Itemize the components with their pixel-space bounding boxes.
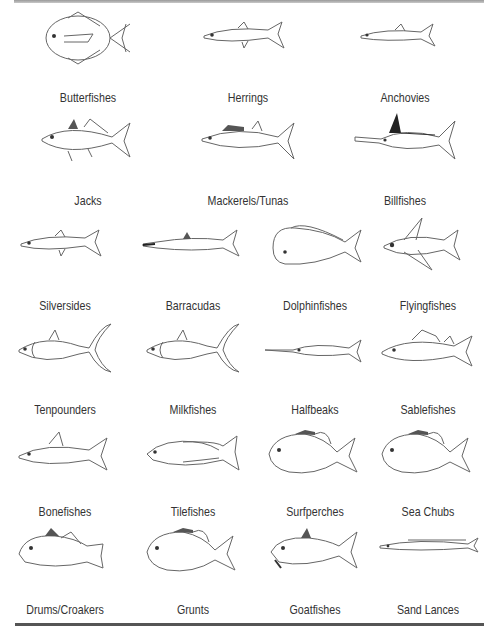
top-rule (14, 0, 484, 3)
fish-item: Silversides (0, 218, 130, 318)
sea-chub-icon (378, 424, 478, 480)
fish-item: Milkfishes (128, 322, 258, 422)
fish-label: Herrings (195, 90, 302, 105)
fish-label: Barracudas (140, 298, 247, 313)
silverside-icon (15, 218, 115, 274)
fish-label: Anchovies (352, 90, 459, 105)
fish-label: Mackerels/Tunas (195, 193, 302, 208)
fish-item: Sablefishes (363, 322, 493, 422)
fish-item: Sand Lances (363, 522, 493, 622)
bottom-rule (15, 623, 484, 626)
fish-label: Grunts (140, 602, 247, 617)
fish-label: Tilefishes (140, 504, 247, 519)
fish-label: Drums/Croakers (12, 602, 119, 617)
fish-label: Tenpounders (12, 402, 119, 417)
tilefish-icon (143, 424, 243, 480)
fish-label: Milkfishes (140, 402, 247, 417)
fish-item: Anchovies (340, 10, 470, 110)
fish-label: Butterfishes (35, 90, 142, 105)
jack-icon (38, 113, 138, 169)
fish-label: Silversides (12, 298, 119, 313)
fish-label: Flyingfishes (375, 298, 482, 313)
fish-item: Tilefishes (128, 424, 258, 524)
fish-label: Goatfishes (262, 602, 369, 617)
bonefish-icon (15, 424, 115, 480)
fish-label: Billfishes (352, 193, 459, 208)
dolphinfish-icon (265, 218, 365, 274)
tenpounder-icon (15, 322, 115, 378)
fish-label: Sablefishes (375, 402, 482, 417)
fish-item: Sea Chubs (363, 424, 493, 524)
halfbeak-icon (265, 322, 365, 378)
fish-item: Butterfishes (23, 10, 153, 110)
fish-item: Billfishes (340, 113, 470, 213)
fish-item: Bonefishes (0, 424, 130, 524)
fish-label: Halfbeaks (262, 402, 369, 417)
billfish-icon (355, 113, 455, 169)
fish-item: Flyingfishes (363, 218, 493, 318)
fish-item: Halfbeaks (250, 322, 380, 422)
fish-item: Dolphinfishes (250, 218, 380, 318)
anchovy-icon (355, 10, 455, 66)
fish-label: Sand Lances (375, 602, 482, 617)
fish-item: Mackerels/Tunas (183, 113, 313, 213)
barracuda-icon (143, 218, 243, 274)
goatfish-icon (265, 522, 365, 578)
fish-label: Bonefishes (12, 504, 119, 519)
surfperch-icon (265, 424, 365, 480)
fish-item: Barracudas (128, 218, 258, 318)
fish-label: Jacks (35, 193, 142, 208)
flyingfish-icon (378, 218, 478, 274)
fish-label: Surfperches (262, 504, 369, 519)
fish-item: Surfperches (250, 424, 380, 524)
butterfish-icon (38, 10, 138, 66)
herring-icon (198, 10, 298, 66)
fish-item: Herrings (183, 10, 313, 110)
fish-item: Goatfishes (250, 522, 380, 622)
fish-item: Drums/Croakers (0, 522, 130, 622)
mackerel-icon (198, 113, 298, 169)
sand-lance-icon (378, 522, 478, 578)
milkfish-icon (143, 322, 243, 378)
drum-icon (15, 522, 115, 578)
fish-item: Tenpounders (0, 322, 130, 422)
fish-item: Grunts (128, 522, 258, 622)
sablefish-icon (378, 322, 478, 378)
fish-label: Dolphinfishes (262, 298, 369, 313)
grunt-icon (143, 522, 243, 578)
fish-label: Sea Chubs (375, 504, 482, 519)
fish-item: Jacks (23, 113, 153, 213)
